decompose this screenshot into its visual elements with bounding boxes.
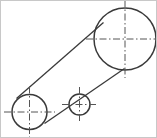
small-pulley-group (62, 87, 97, 122)
belt-drive-diagram (1, 1, 157, 138)
diagram-frame (0, 0, 157, 138)
large-pulley-group (86, 1, 157, 78)
left-pulley-group (4, 87, 55, 138)
